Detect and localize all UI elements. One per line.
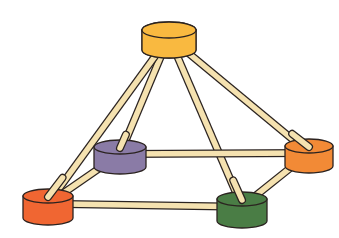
edge-red-green: [48, 204, 242, 207]
edge-purple-orange: [120, 153, 309, 154]
edge-layer: [48, 37, 309, 207]
network-diagram: [0, 0, 339, 238]
yellow-node-front: [142, 22, 196, 58]
node-layer: [23, 22, 333, 228]
